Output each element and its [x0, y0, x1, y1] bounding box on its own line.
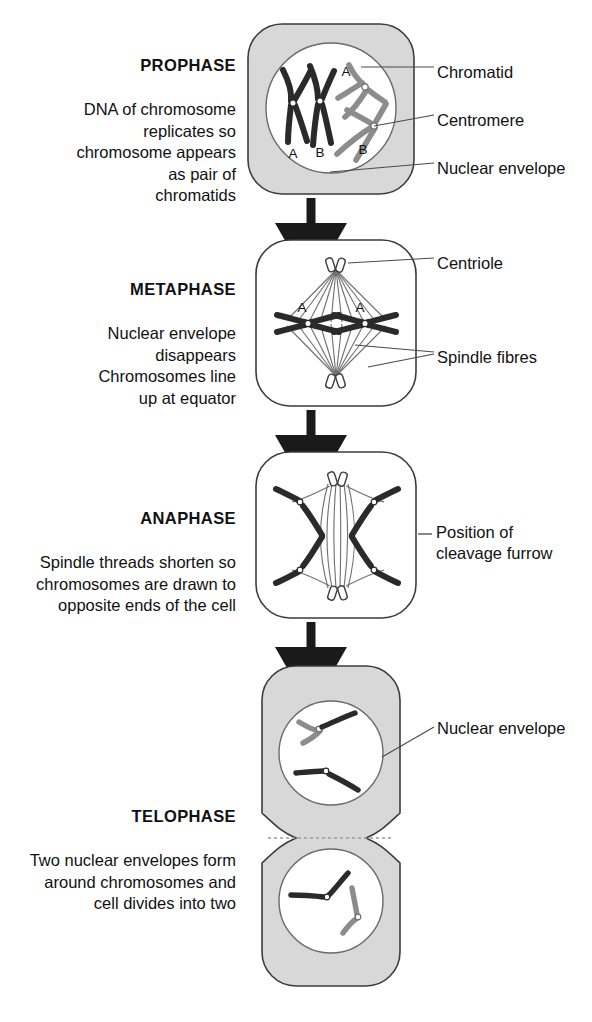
caption-telophase: TELOPHASE Two nuclear envelopes form aro…	[6, 785, 236, 936]
metaphase-label-a-right: A	[355, 300, 364, 315]
prophase-label-b-left: B	[315, 145, 324, 160]
stage-body-telophase: Two nuclear envelopes form around chromo…	[6, 850, 236, 914]
caption-prophase: PROPHASE DNA of chromosome replicates so…	[18, 34, 236, 228]
telophase-cell	[262, 666, 434, 986]
stage-title-telophase: TELOPHASE	[6, 806, 236, 827]
stage-body-prophase: DNA of chromosome replicates so chromoso…	[18, 99, 236, 206]
annotation-centriole: Centriole	[437, 253, 503, 274]
metaphase-cytoplasm	[256, 240, 416, 406]
prophase-cell: A B A B	[248, 24, 434, 194]
annotation-cleavage-furrow: Position of cleavage furrow	[436, 522, 552, 563]
stage-title-metaphase: METAPHASE	[18, 279, 236, 300]
metaphase-label-a-left: A	[297, 300, 306, 315]
annotation-nuclear-envelope-prophase: Nuclear envelope	[437, 158, 565, 179]
anaphase-cell	[256, 452, 432, 618]
caption-metaphase: METAPHASE Nuclear envelope disappears Ch…	[18, 258, 236, 431]
annotation-spindle-fibres: Spindle fibres	[437, 347, 537, 368]
stage-title-prophase: PROPHASE	[18, 55, 236, 76]
annotation-chromatid: Chromatid	[437, 62, 513, 83]
caption-anaphase: ANAPHASE Spindle threads shorten so chro…	[6, 487, 236, 638]
stage-title-anaphase: ANAPHASE	[6, 508, 236, 529]
prophase-label-b-right: B	[358, 142, 367, 157]
metaphase-cell: A A	[256, 240, 434, 406]
prophase-label-a-right: A	[341, 64, 350, 79]
mitosis-diagram: A B A B	[0, 0, 592, 1022]
prophase-label-a-left: A	[288, 146, 297, 161]
telophase-nucleus-upper	[279, 701, 383, 805]
stage-body-anaphase: Spindle threads shorten so chromosomes a…	[6, 552, 236, 616]
telophase-nucleus-lower	[279, 849, 383, 953]
prophase-nuclear-envelope	[266, 43, 396, 173]
annotation-centromere: Centromere	[437, 110, 524, 131]
stage-body-metaphase: Nuclear envelope disappears Chromosomes …	[18, 323, 236, 409]
annotation-nuclear-envelope-telophase: Nuclear envelope	[437, 718, 565, 739]
